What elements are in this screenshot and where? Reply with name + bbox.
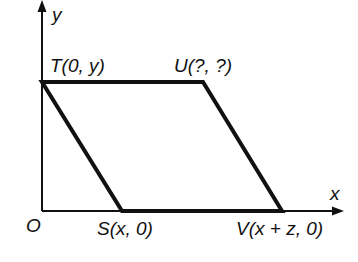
- point-s-label: S(x, 0): [97, 219, 153, 238]
- point-u-label: U(?, ?): [174, 56, 232, 75]
- point-v-label: V(x + z, 0): [236, 219, 323, 238]
- origin-label: O: [26, 216, 41, 235]
- parallelogram: [42, 82, 282, 211]
- y-axis: [38, 0, 47, 211]
- x-axis-label: x: [330, 184, 340, 203]
- y-axis-label: y: [52, 5, 62, 24]
- point-t-label: T(0, y): [50, 56, 105, 75]
